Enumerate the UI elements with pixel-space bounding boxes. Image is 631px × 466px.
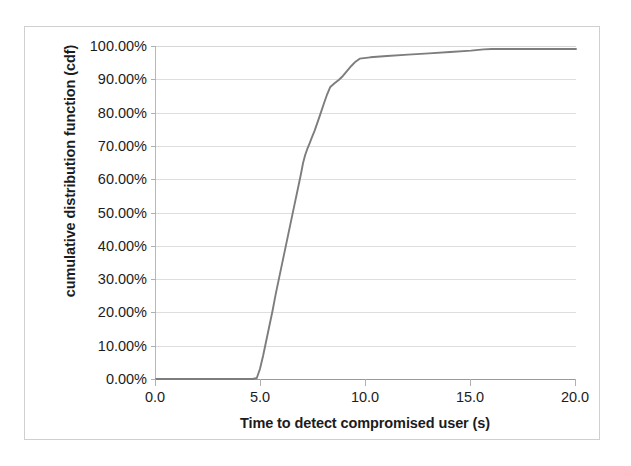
- y-axis-tick-label: 100.00%: [61, 39, 147, 54]
- y-axis-tick-label: 0.00%: [61, 372, 147, 387]
- plot-area: [155, 46, 576, 379]
- y-axis-tick-label: 10.00%: [61, 339, 147, 354]
- x-axis-tick: [575, 379, 576, 386]
- chart-figure: cumulative distribution function (cdf) 0…: [24, 26, 600, 440]
- x-axis-title: Time to detect compromised user (s): [155, 415, 575, 431]
- x-axis-tick: [260, 379, 261, 386]
- x-axis: Time to detect compromised user (s) 0.05…: [155, 379, 575, 439]
- cdf-series-line: [156, 49, 576, 379]
- y-axis-tick-label: 40.00%: [61, 239, 147, 254]
- x-axis-tick-label: 0.0: [125, 389, 185, 405]
- y-axis-tick-label: 50.00%: [61, 206, 147, 221]
- x-axis-tick-label: 10.0: [335, 389, 395, 405]
- cdf-series-svg: [156, 46, 576, 379]
- y-axis-tick-label: 90.00%: [61, 72, 147, 87]
- y-axis-tick-label: 30.00%: [61, 272, 147, 287]
- y-axis-tick-label: 80.00%: [61, 106, 147, 121]
- x-axis-tick: [470, 379, 471, 386]
- x-axis-tick-label: 20.0: [545, 389, 605, 405]
- y-axis-tick-label: 70.00%: [61, 139, 147, 154]
- x-axis-tick: [155, 379, 156, 386]
- x-axis-tick-label: 5.0: [230, 389, 290, 405]
- y-axis-tick-labels: 0.00%10.00%20.00%30.00%40.00%50.00%60.00…: [61, 46, 147, 379]
- x-axis-tick-label: 15.0: [440, 389, 500, 405]
- x-axis-tick: [365, 379, 366, 386]
- y-axis-tick-label: 60.00%: [61, 172, 147, 187]
- y-axis-tick-label: 20.00%: [61, 305, 147, 320]
